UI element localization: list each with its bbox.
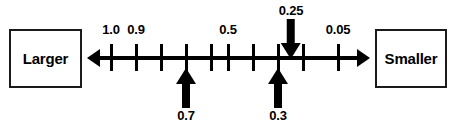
tick-mark bbox=[185, 44, 188, 71]
tick-mark bbox=[337, 44, 340, 71]
larger-label-text: Larger bbox=[23, 50, 69, 67]
tick-value-label: 0.05 bbox=[326, 22, 351, 37]
marker-value-label: 0.3 bbox=[269, 109, 286, 123]
tick-value-label: 0.5 bbox=[219, 22, 236, 37]
arrow-down-icon bbox=[280, 19, 302, 59]
smaller-label-text: Smaller bbox=[385, 50, 438, 67]
value-marker: 0.3 bbox=[267, 68, 289, 123]
tick-mark bbox=[110, 44, 113, 71]
arrow-right-icon bbox=[357, 49, 370, 67]
tick-value-label: 1.0 bbox=[102, 22, 119, 37]
arrow-left-icon bbox=[87, 49, 100, 67]
marker-value-label: 0.25 bbox=[279, 4, 304, 18]
smaller-label-box: Smaller bbox=[375, 29, 447, 88]
tick-mark bbox=[210, 44, 213, 71]
tick-mark bbox=[252, 44, 255, 71]
tick-mark bbox=[160, 44, 163, 71]
arrow-up-icon bbox=[267, 68, 289, 108]
tick-mark bbox=[227, 44, 230, 71]
larger-label-box: Larger bbox=[9, 29, 82, 88]
tick-mark bbox=[135, 44, 138, 71]
number-line-diagram: Larger Smaller 1.00.90.50.05 0.250.70.3 bbox=[0, 0, 456, 131]
marker-value-label: 0.7 bbox=[177, 109, 194, 123]
arrow-up-icon bbox=[175, 68, 197, 108]
value-marker: 0.7 bbox=[175, 68, 197, 123]
value-marker: 0.25 bbox=[279, 4, 304, 59]
tick-value-label: 0.9 bbox=[127, 22, 144, 37]
